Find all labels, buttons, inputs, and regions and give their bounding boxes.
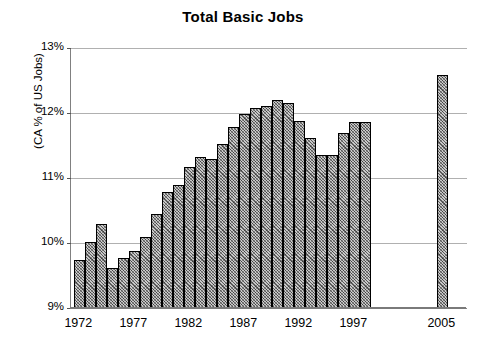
y-tick-label: 13%: [22, 41, 64, 53]
x-tick-label-1977: 1977: [108, 316, 158, 330]
plot-area: [70, 48, 467, 308]
x-tick-label-1997: 1997: [328, 316, 378, 330]
y-tick-label: 12%: [22, 106, 64, 118]
bar-1974: [96, 224, 107, 309]
gridline-13: [71, 48, 467, 49]
bar-1982: [184, 167, 195, 308]
bar-1994: [316, 155, 327, 308]
bar-1988: [250, 108, 261, 308]
x-tick-label-1987: 1987: [218, 316, 268, 330]
x-tick-label-1992: 1992: [273, 316, 323, 330]
bar-1980: [162, 192, 173, 308]
bar-1998: [360, 122, 371, 308]
bar-1984: [206, 159, 217, 309]
x-tick-label-2005: 2005: [416, 316, 466, 330]
bar-1995: [327, 155, 338, 308]
bar-1992: [294, 121, 305, 308]
bar-chart: Total Basic Jobs (CA % of US Jobs) 9%10%…: [0, 0, 486, 358]
bar-1996: [338, 133, 349, 308]
bar-1979: [151, 214, 162, 308]
y-tick-label: 11%: [22, 171, 64, 183]
y-tick-mark: [67, 113, 71, 114]
chart-title: Total Basic Jobs: [0, 8, 486, 25]
bar-1981: [173, 185, 184, 308]
bar-1986: [228, 127, 239, 308]
bar-1972: [74, 260, 85, 308]
x-axis-line: [70, 307, 466, 309]
bar-1973: [85, 242, 96, 308]
bar-1991: [283, 103, 294, 308]
bar-1976: [118, 258, 129, 308]
y-tick-label: 9%: [22, 301, 64, 313]
bar-1975: [107, 268, 118, 308]
y-tick-mark: [67, 48, 71, 49]
bar-1977: [129, 251, 140, 308]
bar-1985: [217, 144, 228, 308]
bar-1978: [140, 237, 151, 309]
bar-1990: [272, 100, 283, 308]
bar-1989: [261, 106, 272, 308]
x-tick-label-1982: 1982: [163, 316, 213, 330]
y-tick-mark: [67, 178, 71, 179]
x-tick-label-1972: 1972: [53, 316, 103, 330]
bar-1997: [349, 122, 360, 308]
bar-2005: [437, 75, 448, 308]
bar-1983: [195, 157, 206, 308]
bar-1993: [305, 138, 316, 308]
y-tick-mark: [67, 243, 71, 244]
bar-1987: [239, 114, 250, 308]
y-tick-label: 10%: [22, 236, 64, 248]
